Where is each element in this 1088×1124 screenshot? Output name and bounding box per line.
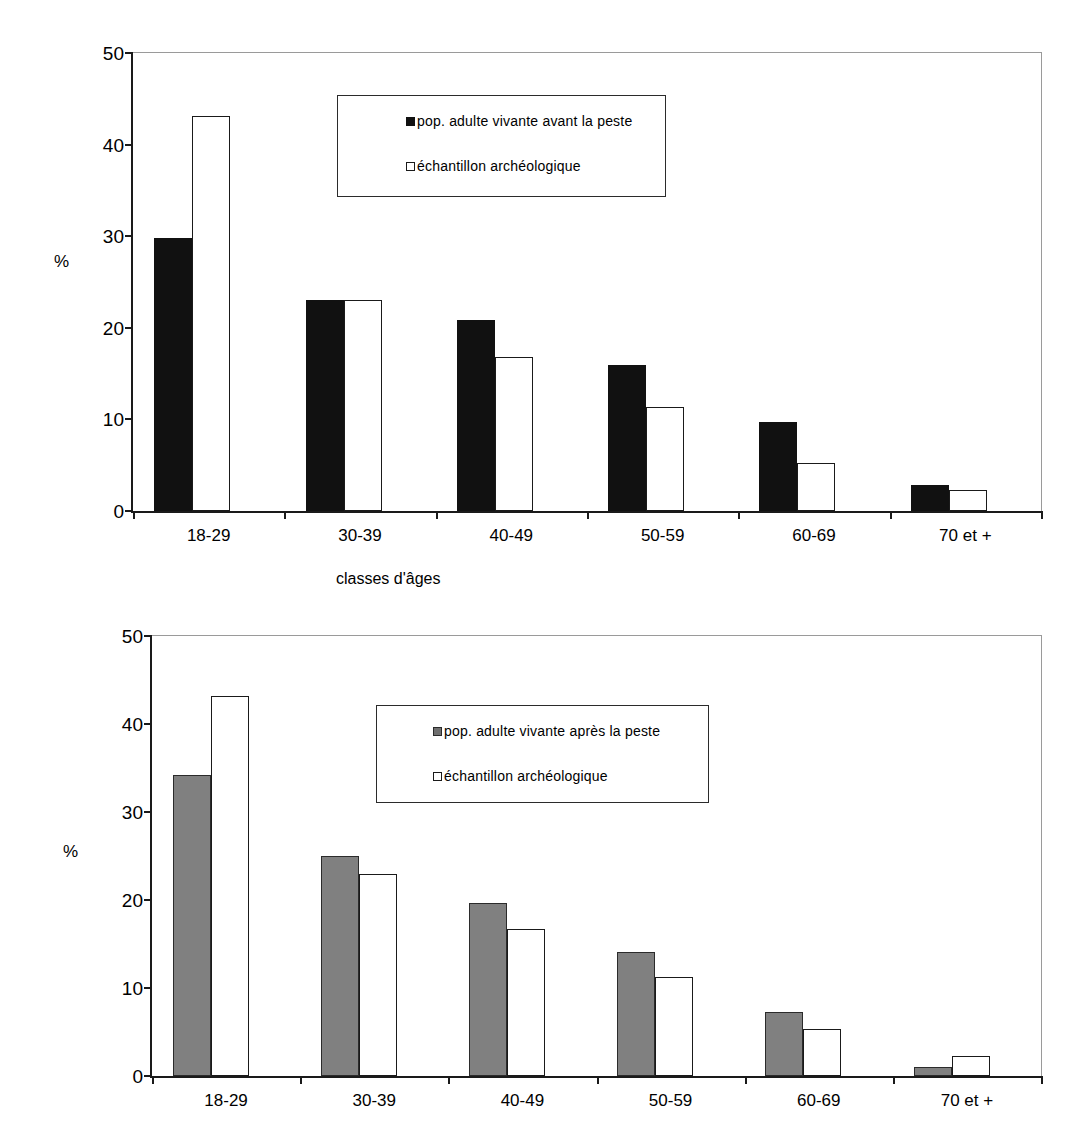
bar xyxy=(759,422,797,511)
bar-pair xyxy=(890,53,1041,511)
plot-area-2: 0102030405018-2930-3940-4950-5960-6970 e… xyxy=(150,635,1042,1078)
x-tick-label: 70 et + xyxy=(941,1092,993,1109)
chart-figure-1: % 0102030405018-2930-3940-4950-5960-6970… xyxy=(0,0,1088,600)
x-tick-label: 18-29 xyxy=(187,527,230,544)
x-tick-label: 60-69 xyxy=(797,1092,840,1109)
bar-pair xyxy=(738,53,889,511)
bar xyxy=(173,775,211,1076)
bar-pair xyxy=(152,636,300,1076)
bar xyxy=(952,1056,990,1076)
y-tick-mark xyxy=(125,510,133,512)
legend-2: pop. adulte vivante après la peste échan… xyxy=(376,705,709,803)
y-axis-title-2: % xyxy=(63,843,78,860)
bar-group xyxy=(890,53,1041,511)
bar xyxy=(655,977,693,1076)
bar xyxy=(507,929,545,1076)
x-tick-label: 60-69 xyxy=(792,527,835,544)
legend-1: pop. adulte vivante avant la peste échan… xyxy=(337,95,666,197)
x-tick-mark xyxy=(1041,1076,1043,1084)
y-tick-mark xyxy=(144,899,152,901)
bar xyxy=(154,238,192,511)
x-tick-label: 50-59 xyxy=(641,527,684,544)
bar-pair xyxy=(893,636,1041,1076)
x-tick-label: 40-49 xyxy=(490,527,533,544)
y-tick-mark xyxy=(144,723,152,725)
y-tick-label: 40 xyxy=(103,135,124,154)
x-tick-label: 18-29 xyxy=(204,1092,247,1109)
bar-groups-2 xyxy=(152,636,1041,1076)
bar-group xyxy=(300,636,448,1076)
legend-swatch-open-icon xyxy=(406,162,415,171)
legend-label-series-b: échantillon archéologique xyxy=(444,769,608,783)
y-axis-title-1: % xyxy=(54,253,69,270)
y-tick-mark xyxy=(144,1075,152,1077)
bar xyxy=(495,357,533,511)
x-tick-mark xyxy=(587,511,589,519)
x-tick-label: 50-59 xyxy=(649,1092,692,1109)
x-tick-mark xyxy=(893,1076,895,1084)
bar xyxy=(192,116,230,511)
y-tick-label: 0 xyxy=(113,502,124,521)
bar-pair xyxy=(133,53,284,511)
bar-group xyxy=(133,53,284,511)
y-tick-label: 40 xyxy=(122,715,143,734)
y-tick-label: 10 xyxy=(122,979,143,998)
y-tick-mark xyxy=(125,52,133,54)
bar xyxy=(608,365,646,511)
bar xyxy=(914,1067,952,1076)
y-tick-mark xyxy=(144,811,152,813)
x-tick-label: 70 et + xyxy=(939,527,991,544)
y-tick-label: 0 xyxy=(132,1067,143,1086)
x-tick-mark xyxy=(152,1076,154,1084)
bar xyxy=(306,300,344,511)
bar xyxy=(321,856,359,1076)
chart-figure-2: % 0102030405018-2930-3940-4950-5960-6970… xyxy=(0,600,1088,1124)
bar xyxy=(211,696,249,1076)
bar xyxy=(911,485,949,511)
legend-swatch-filled-icon xyxy=(433,727,442,736)
legend-label-series-b: échantillon archéologique xyxy=(417,159,581,173)
legend-swatch-filled-icon xyxy=(406,117,415,126)
legend-label-series-a: pop. adulte vivante avant la peste xyxy=(417,114,632,128)
bar xyxy=(803,1029,841,1076)
y-tick-label: 50 xyxy=(103,44,124,63)
x-tick-mark xyxy=(890,511,892,519)
x-tick-label: 30-39 xyxy=(353,1092,396,1109)
x-tick-mark xyxy=(1041,511,1043,519)
bar-group xyxy=(597,636,745,1076)
y-tick-mark xyxy=(144,635,152,637)
bar-pair xyxy=(300,636,448,1076)
bar-pair xyxy=(745,636,893,1076)
bar-group xyxy=(448,636,596,1076)
bar-pair xyxy=(597,636,745,1076)
legend-swatch-open-icon xyxy=(433,772,442,781)
x-axis-title-1: classes d'âges xyxy=(336,571,440,587)
y-tick-mark xyxy=(125,144,133,146)
x-tick-mark xyxy=(738,511,740,519)
bar-group xyxy=(152,636,300,1076)
x-tick-mark xyxy=(597,1076,599,1084)
bar-pair xyxy=(448,636,596,1076)
bar xyxy=(617,952,655,1076)
legend-entry-series-a: pop. adulte vivante avant la peste xyxy=(364,114,639,128)
bar xyxy=(359,874,397,1076)
legend-entry-series-a: pop. adulte vivante après la peste xyxy=(403,724,682,738)
legend-entry-series-b: échantillon archéologique xyxy=(403,769,682,783)
x-tick-mark xyxy=(745,1076,747,1084)
bar-group xyxy=(893,636,1041,1076)
x-tick-mark xyxy=(436,511,438,519)
x-tick-mark xyxy=(300,1076,302,1084)
y-tick-mark xyxy=(144,987,152,989)
x-tick-mark xyxy=(448,1076,450,1084)
bar xyxy=(949,490,987,511)
y-tick-label: 50 xyxy=(122,627,143,646)
x-tick-mark xyxy=(284,511,286,519)
x-tick-label: 40-49 xyxy=(501,1092,544,1109)
y-tick-label: 20 xyxy=(103,318,124,337)
y-tick-label: 30 xyxy=(122,803,143,822)
y-tick-label: 10 xyxy=(103,410,124,429)
bar-group xyxy=(738,53,889,511)
bar xyxy=(457,320,495,511)
y-tick-label: 20 xyxy=(122,891,143,910)
y-tick-mark xyxy=(125,418,133,420)
